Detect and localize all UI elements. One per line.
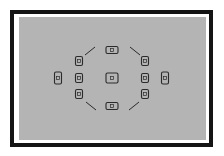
af-point-right-mid — [142, 74, 149, 83]
af-point-far-left — [55, 72, 62, 84]
area-mark-top-left — [85, 47, 95, 55]
af-point-left-bottom — [76, 90, 83, 99]
area-marks — [85, 47, 140, 110]
area-mark-top-right — [130, 47, 140, 55]
af-point-right-top — [142, 57, 149, 66]
af-overlay — [0, 0, 224, 156]
af-points — [55, 47, 169, 110]
af-point-left-top — [76, 57, 83, 66]
af-point-top — [106, 47, 118, 54]
af-point-bottom — [106, 103, 118, 110]
af-point-left-mid — [76, 74, 83, 83]
area-mark-bottom-left — [86, 102, 96, 110]
af-point-far-right — [162, 72, 169, 84]
af-point-center — [106, 73, 118, 83]
af-point-right-bottom — [142, 90, 149, 99]
area-mark-bottom-right — [129, 102, 139, 110]
